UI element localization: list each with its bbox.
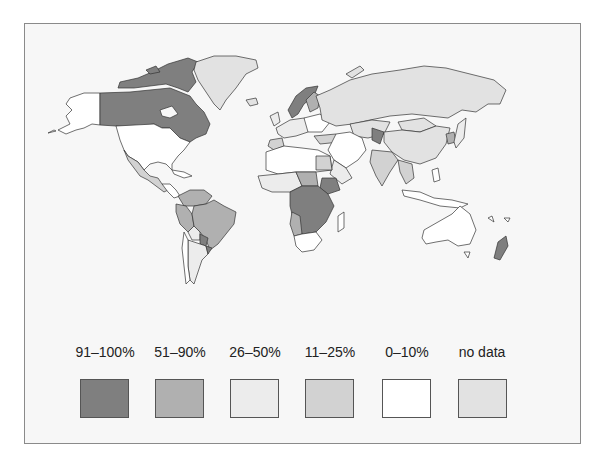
region-argentina <box>188 240 208 284</box>
region-arctic-islands <box>118 58 198 92</box>
region-japan <box>454 118 466 148</box>
region-pacific-islands <box>488 216 494 222</box>
region-uk <box>270 112 280 126</box>
region-south-africa <box>294 232 322 252</box>
world-map <box>0 0 601 458</box>
region-new-zealand <box>494 236 508 260</box>
region-aleutians <box>48 130 56 133</box>
region-peru <box>176 204 194 232</box>
region-egypt <box>316 156 332 170</box>
region-tasmania <box>464 252 470 258</box>
region-brazil <box>192 200 236 250</box>
region-pacific-islands-2 <box>504 218 510 222</box>
region-philippines <box>432 168 440 182</box>
region-india <box>370 150 398 186</box>
region-novaya-zemlya <box>346 66 364 78</box>
region-russia <box>316 66 506 126</box>
region-madagascar <box>338 212 344 232</box>
region-caribbean <box>172 170 192 178</box>
region-indonesia <box>402 190 468 208</box>
region-australia <box>422 206 476 246</box>
region-se-asia <box>398 160 414 184</box>
region-iceland <box>246 98 258 106</box>
region-alaska <box>58 93 100 134</box>
